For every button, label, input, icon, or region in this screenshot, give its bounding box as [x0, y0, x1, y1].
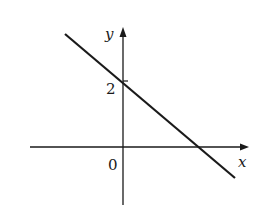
graph: y x 0 2 [0, 0, 265, 211]
y-axis-label: y [104, 25, 114, 43]
data-line [65, 34, 235, 178]
y-axis-arrow-icon [120, 27, 127, 37]
x-axis-label: x [238, 153, 247, 171]
origin-label: 0 [108, 156, 118, 174]
x-axis-arrow-icon [240, 144, 249, 151]
y-tick-label-2: 2 [106, 80, 116, 98]
